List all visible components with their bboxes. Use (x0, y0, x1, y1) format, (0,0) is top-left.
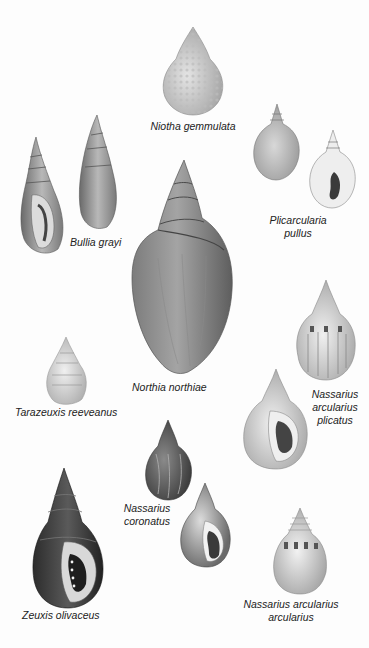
label-zeuxis-olivaceus: Zeuxis olivaceus (22, 609, 100, 622)
shell-bullia-grayi-dorsal (75, 113, 119, 231)
label-niotha-gemmulata: Niotha gemmulata (143, 120, 243, 133)
shell-niotha-gemmulata (160, 25, 226, 117)
label-plicarcularia-pullus: Plicarculariapullus (255, 214, 341, 240)
shell-bullia-grayi-aperture (18, 135, 66, 255)
label-northia-northiae: Northia northiae (132, 381, 207, 394)
label-nassarius-arcularius-plicatus: Nassariusarculariusplicatus (300, 388, 369, 427)
label-nassarius-arcularius-arcularius: Nassarius arculariusarcularius (236, 598, 346, 624)
shell-tarazeuxis-reeveanus (44, 335, 88, 407)
label-nassarius-coronatus: Nassariuscoronatus (112, 502, 182, 528)
label-tarazeuxis-reeveanus: Tarazeuxis reeveanus (15, 406, 117, 419)
shell-zeuxis-olivaceus (30, 466, 106, 610)
shell-northia-northiae (128, 158, 236, 378)
shell-nassarius-coronatus-ventral (177, 481, 235, 569)
shell-plate: Niotha gemmulata Bullia grayi Plicarcula… (0, 0, 369, 648)
label-bullia-grayi: Bullia grayi (70, 236, 121, 249)
shell-nassarius-arcularius-arcularius (270, 506, 330, 596)
shell-plicarcularia-pullus-ventral (308, 128, 358, 210)
shell-plicarcularia-pullus-dorsal (252, 102, 302, 182)
